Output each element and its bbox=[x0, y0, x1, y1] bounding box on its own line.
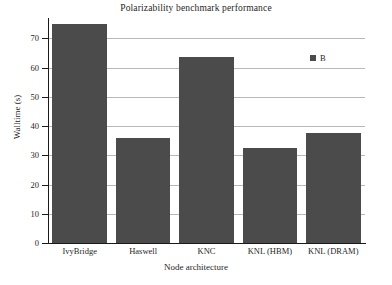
legend-swatch-icon bbox=[310, 55, 316, 61]
y-tick-label: 10 bbox=[13, 210, 39, 219]
x-tick-label: Haswell bbox=[111, 246, 174, 256]
x-tick-label: KNC bbox=[175, 246, 238, 256]
x-tick-label: IvyBridge bbox=[48, 246, 111, 256]
bar bbox=[306, 133, 361, 243]
chart-title: Polarizability benchmark performance bbox=[0, 3, 392, 13]
legend-label: B bbox=[320, 54, 326, 63]
x-tick-label: KNL (DRAM) bbox=[302, 246, 365, 256]
x-tick-label: KNL (HBM) bbox=[238, 246, 301, 256]
chart-figure: Polarizability benchmark performance 010… bbox=[0, 0, 392, 285]
bar-series-B bbox=[48, 18, 365, 243]
x-axis-line bbox=[48, 243, 366, 244]
x-axis-label: Node architecture bbox=[0, 262, 392, 272]
y-tick-label: 70 bbox=[13, 34, 39, 43]
bar bbox=[243, 148, 298, 243]
y-axis-label: Walltime (s) bbox=[12, 57, 22, 177]
chart-legend: B bbox=[310, 54, 326, 63]
bar bbox=[116, 138, 171, 243]
y-tick-label: 20 bbox=[13, 181, 39, 190]
bar bbox=[179, 57, 234, 243]
y-tick-label: 0 bbox=[13, 239, 39, 248]
y-tick-mark bbox=[42, 243, 48, 244]
bar bbox=[52, 24, 107, 243]
